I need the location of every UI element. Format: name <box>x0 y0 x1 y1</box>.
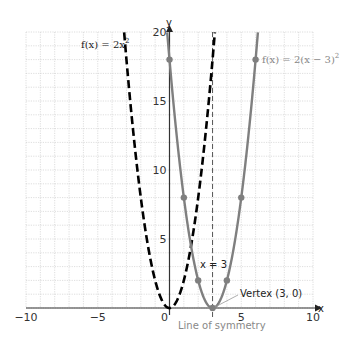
x-tick-label: −5 <box>90 311 106 324</box>
label-f2: f(x) = 2(x − 3)2 <box>262 52 339 65</box>
label-axis-of-symmetry: x = 3 <box>200 259 227 270</box>
parabola-graph: −10−505105101520 f(x) = 2x2 f(x) = 2(x −… <box>0 0 345 347</box>
point-marker <box>209 305 215 311</box>
point-marker <box>166 56 172 62</box>
label-f1: f(x) = 2x2 <box>81 37 129 50</box>
y-tick-label: 5 <box>160 233 167 246</box>
label-vertex: Vertex (3, 0) <box>240 288 302 299</box>
point-marker <box>224 277 230 283</box>
tick-labels: −10−505105101520 <box>14 26 320 324</box>
point-marker <box>238 194 244 200</box>
y-tick-label: 15 <box>153 95 167 108</box>
y-axis-label: y <box>166 17 172 28</box>
x-tick-label: −10 <box>14 311 37 324</box>
y-tick-label: 10 <box>153 164 167 177</box>
point-marker <box>252 56 258 62</box>
x-axis-label: x <box>318 303 324 314</box>
label-line-of-symmetry: Line of symmetry <box>178 320 266 331</box>
point-marker <box>195 277 201 283</box>
point-marker <box>181 194 187 200</box>
x-tick-label: 0 <box>161 311 168 324</box>
y-tick-label: 20 <box>153 26 167 39</box>
